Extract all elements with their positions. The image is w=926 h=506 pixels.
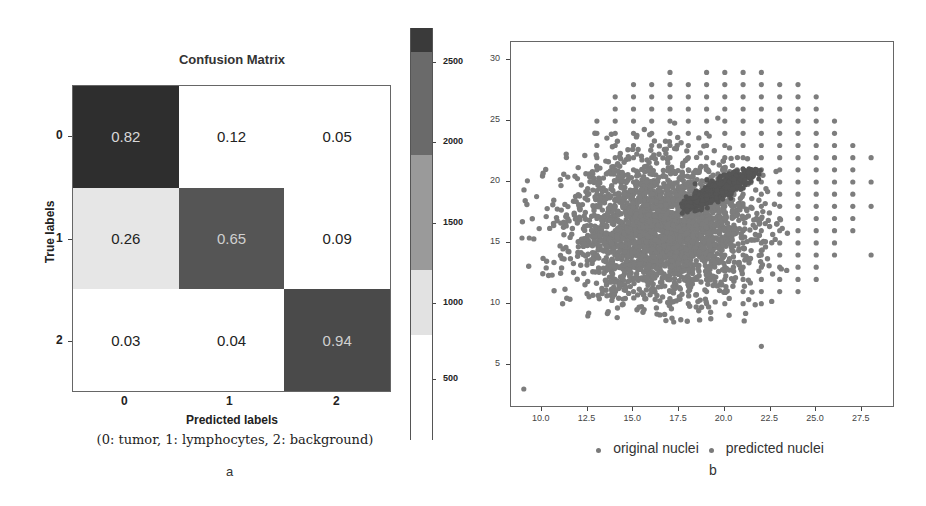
row-tick-label: 0 <box>56 128 63 142</box>
tick-mark <box>724 407 725 411</box>
colorbar-tick-label: 1500 <box>443 217 463 227</box>
confusion-matrix-title: Confusion Matrix <box>72 52 392 67</box>
legend-marker-icon <box>709 448 714 453</box>
confusion-matrix-grid: 0.820.120.050.260.650.090.030.040.94 <box>72 85 391 392</box>
tick-mark <box>68 341 72 342</box>
tick-mark <box>433 223 436 224</box>
colorbar-band <box>411 28 432 52</box>
tick-mark <box>506 242 510 243</box>
tick-mark <box>433 62 436 63</box>
x-tick-label: 27.5 <box>852 413 870 423</box>
colorbar-tick-label: 2000 <box>443 136 463 146</box>
colorbar-band <box>411 52 432 155</box>
tick-mark <box>632 407 633 411</box>
matrix-cell: 0.05 <box>284 86 390 188</box>
legend-item-original: original nuclei <box>596 440 699 456</box>
matrix-cell: 0.03 <box>73 289 179 391</box>
col-tick-label: 1 <box>226 394 233 408</box>
tick-mark <box>506 303 510 304</box>
colorbar <box>410 28 433 440</box>
legend-label-original: original nuclei <box>613 440 699 456</box>
class-legend-note: (0: tumor, 1: lymphocytes, 2: background… <box>40 432 430 447</box>
matrix-cell: 0.65 <box>179 188 285 290</box>
x-axis-label: Predicted labels <box>72 413 392 427</box>
tick-mark <box>433 379 436 380</box>
legend-item-predicted: predicted nuclei <box>709 440 824 456</box>
col-tick-label: 2 <box>333 394 340 408</box>
matrix-cell: 0.26 <box>73 188 179 290</box>
panel-a-caption: a <box>226 464 233 479</box>
y-axis-label: True labels <box>43 192 57 272</box>
colorbar-band <box>411 155 432 270</box>
matrix-cell: 0.12 <box>179 86 285 188</box>
tick-mark <box>861 407 862 411</box>
tick-mark <box>68 136 72 137</box>
tick-mark <box>541 407 542 411</box>
x-tick-label: 20.0 <box>715 413 733 423</box>
scatter-plot-area <box>510 41 894 407</box>
legend-marker-icon <box>596 448 601 453</box>
tick-mark <box>506 181 510 182</box>
colorbar-tick-label: 2500 <box>443 56 463 66</box>
x-tick-label: 17.5 <box>669 413 687 423</box>
tick-mark <box>678 407 679 411</box>
x-tick-label: 22.5 <box>761 413 779 423</box>
row-tick-label: 1 <box>56 231 63 245</box>
y-tick-label: 10 <box>490 297 500 307</box>
y-tick-label: 20 <box>490 175 500 185</box>
y-tick-label: 25 <box>490 114 500 124</box>
scatter-legend: original nuclei predicted nuclei <box>560 440 860 456</box>
colorbar-band <box>411 335 432 440</box>
matrix-cell: 0.04 <box>179 289 285 391</box>
legend-label-predicted: predicted nuclei <box>726 440 824 456</box>
panel-b-caption: b <box>709 462 717 478</box>
tick-mark <box>68 239 72 240</box>
matrix-cell: 0.82 <box>73 86 179 188</box>
tick-mark <box>506 364 510 365</box>
tick-mark <box>587 407 588 411</box>
colorbar-tick-label: 500 <box>443 373 458 383</box>
x-tick-label: 10.0 <box>532 413 550 423</box>
tick-mark <box>506 59 510 60</box>
matrix-cell: 0.94 <box>284 289 390 391</box>
tick-mark <box>770 407 771 411</box>
colorbar-tick-label: 1000 <box>443 297 463 307</box>
row-tick-label: 2 <box>56 333 63 347</box>
tick-mark <box>433 303 436 304</box>
tick-mark <box>433 142 436 143</box>
tick-mark <box>506 120 510 121</box>
y-tick-label: 5 <box>495 358 500 368</box>
col-tick-label: 0 <box>121 394 128 408</box>
x-tick-label: 12.5 <box>578 413 596 423</box>
matrix-cell: 0.09 <box>284 188 390 290</box>
x-tick-label: 15.0 <box>623 413 641 423</box>
tick-mark <box>815 407 816 411</box>
y-tick-label: 15 <box>490 236 500 246</box>
scatter-points <box>511 42 893 406</box>
x-tick-label: 25.0 <box>806 413 824 423</box>
colorbar-band <box>411 270 432 335</box>
y-tick-label: 30 <box>490 53 500 63</box>
